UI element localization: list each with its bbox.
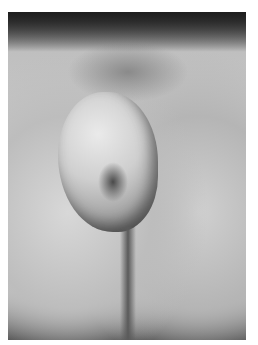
top-shadow (8, 12, 246, 52)
mass-dark-spot (98, 162, 128, 202)
photo-frame (8, 12, 246, 340)
lower-cleft (120, 227, 136, 340)
